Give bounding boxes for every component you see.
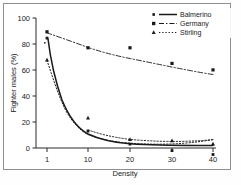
data-point (211, 142, 215, 146)
chart-plot: 0 20 40 60 80 100 1 10 20 30 40 Density … (0, 0, 241, 185)
y-tick-label-0: 0 (26, 144, 30, 153)
scan-speck (44, 42, 46, 44)
x-tick-label-20: 20 (126, 155, 134, 164)
data-point (211, 68, 214, 71)
data-point (170, 62, 173, 65)
series-curves (47, 33, 213, 146)
y-tick-label-60: 60 (22, 66, 30, 75)
y-tick-label-80: 80 (22, 40, 30, 49)
x-tick-label-1: 1 (45, 155, 49, 164)
legend-marker-balmerino (152, 13, 155, 16)
legend-label-balmerino: Balmerino (180, 11, 212, 18)
series-curve-germany (47, 33, 213, 75)
y-axis-ticks (33, 18, 37, 148)
legend-label-germany: Germany (180, 20, 209, 28)
x-tick-label-40: 40 (209, 155, 217, 164)
y-axis-tick-labels: 0 20 40 60 80 100 (17, 14, 30, 153)
x-axis-tick-labels: 1 10 20 30 40 (45, 155, 217, 164)
y-tick-label-40: 40 (22, 92, 30, 101)
data-point (170, 139, 174, 143)
y-tick-label-20: 20 (22, 118, 30, 127)
figure-container: 0 20 40 60 80 100 1 10 20 30 40 Density … (0, 0, 241, 185)
data-point (46, 37, 49, 40)
x-axis-title: Density (112, 169, 137, 178)
data-point (86, 116, 90, 120)
legend-label-stirling: Stirling (180, 29, 202, 37)
x-axis-ticks (47, 148, 213, 152)
data-point (128, 46, 131, 49)
chart-legend: Balmerino Germany Stirling (147, 8, 232, 38)
data-point (212, 153, 215, 156)
series-curve-balmerino (48, 39, 213, 146)
x-tick-label-10: 10 (84, 155, 92, 164)
series-markers-stirling (45, 58, 215, 146)
data-point (45, 30, 48, 33)
x-tick-label-30: 30 (168, 155, 176, 164)
data-point (87, 130, 90, 133)
data-point (86, 46, 89, 49)
series-curve-stirling (47, 61, 213, 145)
legend-marker-germany (152, 22, 155, 25)
data-point (45, 58, 49, 62)
data-point (129, 143, 132, 146)
y-tick-label-100: 100 (17, 14, 30, 23)
data-point (171, 149, 174, 152)
y-axis-title: Fighter males (%) (9, 53, 18, 113)
